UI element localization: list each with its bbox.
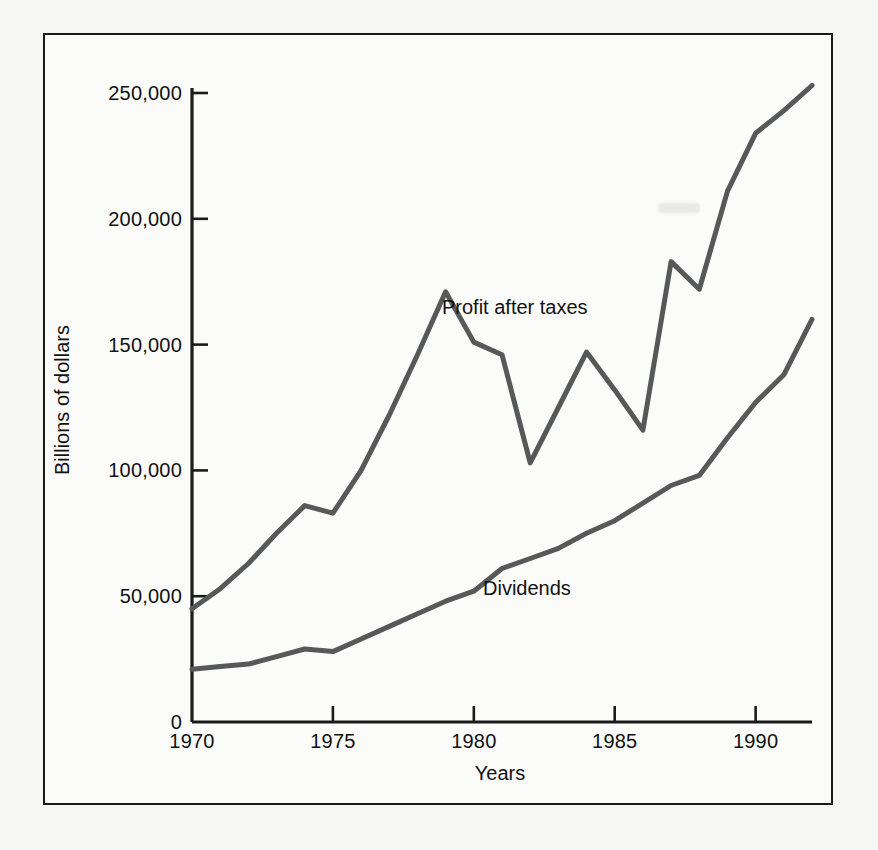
x-tick-label: 1975 bbox=[310, 730, 355, 753]
y-axis-title: Billions of dollars bbox=[51, 325, 74, 475]
y-tick-label: 100,000 bbox=[0, 459, 182, 482]
y-tick-label: 250,000 bbox=[0, 82, 182, 105]
x-tick-label: 1970 bbox=[169, 730, 214, 753]
y-tick-label: 150,000 bbox=[0, 333, 182, 356]
series-line-dividends bbox=[192, 319, 812, 669]
figure-root: 050,000100,000150,000200,000250,000 1970… bbox=[0, 0, 878, 850]
x-axis-title: Years bbox=[475, 762, 525, 785]
axis-lines bbox=[192, 88, 812, 722]
series-label-profit-after-taxes: Profit after taxes bbox=[442, 296, 588, 319]
y-tick-label: 200,000 bbox=[0, 207, 182, 230]
y-tick-label: 50,000 bbox=[0, 585, 182, 608]
print-smudge bbox=[658, 203, 700, 213]
x-tick-label: 1985 bbox=[592, 730, 637, 753]
x-axis-ticks bbox=[333, 706, 756, 722]
y-axis-ticks bbox=[192, 93, 208, 596]
x-tick-label: 1990 bbox=[733, 730, 778, 753]
series-line-profit-after-taxes bbox=[192, 86, 812, 609]
x-tick-label: 1980 bbox=[451, 730, 496, 753]
y-tick-label: 0 bbox=[0, 711, 182, 734]
series-label-dividends: Dividends bbox=[483, 577, 571, 600]
